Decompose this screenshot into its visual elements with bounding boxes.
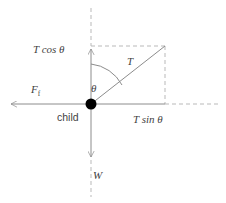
friction-force-subscript: f	[38, 89, 41, 98]
force-diagram: T cos θ Ff child T sin θ T θ W	[0, 0, 226, 203]
dashed-guides	[91, 8, 219, 197]
label-tension: T	[127, 56, 133, 67]
friction-force-symbol: F	[31, 83, 38, 95]
label-tension-vertical-component: T cos θ	[33, 44, 65, 55]
label-theta-angle: θ	[91, 83, 96, 94]
diagram-canvas	[0, 0, 226, 203]
label-friction-force: Ff	[31, 84, 40, 98]
label-tension-horizontal-component: T sin θ	[133, 114, 163, 125]
label-child: child	[57, 112, 79, 123]
child-origin-dot	[86, 99, 97, 110]
label-weight: W	[93, 170, 102, 181]
